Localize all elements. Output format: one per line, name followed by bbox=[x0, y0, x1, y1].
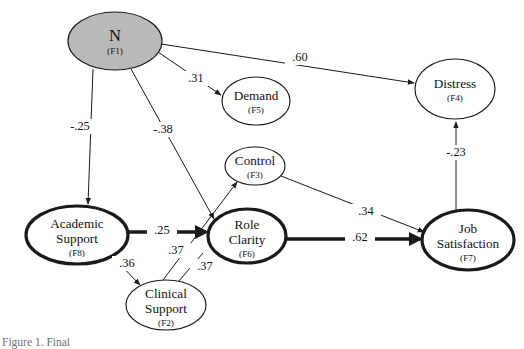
node-f1-n: N(F1) bbox=[68, 12, 162, 70]
node-factor-code: (F2) bbox=[158, 318, 174, 328]
node-label-line: Academic bbox=[50, 216, 104, 231]
coefficient-value: -.25 bbox=[70, 119, 90, 133]
path-coefficient-f2-f3: .37 bbox=[161, 243, 191, 258]
coefficient-value: .31 bbox=[188, 71, 204, 85]
path-diagram-canvas: N(F1)Demand(F5)Distress(F4)Control(F3)Ac… bbox=[0, 0, 524, 349]
node-label-line: Support bbox=[145, 301, 187, 316]
path-arrow-f1-to-f8 bbox=[88, 69, 93, 204]
coefficient-value: .34 bbox=[358, 204, 374, 218]
node-factor-code: (F8) bbox=[69, 248, 85, 258]
coefficient-value: .37 bbox=[168, 243, 184, 257]
node-label-line: Distress bbox=[434, 76, 477, 91]
node-label-line: N bbox=[109, 26, 121, 45]
path-coefficient-f8-f2: .36 bbox=[112, 256, 142, 271]
node-label-line: Role bbox=[235, 217, 260, 232]
node-f4-distress: Distress(F4) bbox=[415, 59, 495, 119]
node-f2-clinical-support: ClinicalSupport(F2) bbox=[126, 280, 206, 330]
node-factor-code: (F3) bbox=[247, 170, 263, 180]
path-coefficient-f3-f7: .34 bbox=[351, 204, 381, 219]
node-label-line: Satisfaction bbox=[437, 236, 500, 251]
path-coefficient-f1-f5: .31 bbox=[181, 71, 211, 86]
node-label-line: Job bbox=[459, 221, 478, 236]
path-arrow-f1-to-f6 bbox=[131, 69, 214, 219]
node-label-line: Support bbox=[56, 231, 98, 246]
node-label-line: Demand bbox=[234, 88, 279, 103]
path-coefficient-f2-f6: .37 bbox=[190, 259, 220, 274]
path-coefficient-f1-f4: .60 bbox=[285, 50, 315, 65]
node-factor-code: (F6) bbox=[239, 249, 255, 259]
node-factor-code: (F5) bbox=[248, 105, 264, 115]
figure-caption: Figure 1. Final bbox=[2, 338, 70, 348]
node-f7-job-satisfaction: JobSatisfaction(F7) bbox=[422, 210, 514, 270]
node-label-line: Control bbox=[235, 153, 276, 168]
coefficient-value: -.23 bbox=[446, 145, 466, 159]
node-f3-control: Control(F3) bbox=[225, 147, 285, 185]
latent-factor-nodes-layer: N(F1)Demand(F5)Distress(F4)Control(F3)Ac… bbox=[26, 12, 514, 330]
node-f8-academic-support: AcademicSupport(F8) bbox=[26, 206, 128, 264]
coefficient-value: .36 bbox=[119, 256, 135, 270]
coefficient-value: .62 bbox=[352, 230, 368, 244]
figure-caption-clip: Figure 1. Final bbox=[0, 338, 524, 349]
path-coefficient-f8-f6: .25 bbox=[147, 223, 177, 238]
path-coefficient-f1-f8: -.25 bbox=[65, 119, 95, 134]
coefficient-value: .25 bbox=[154, 223, 170, 237]
node-f5-demand: Demand(F5) bbox=[222, 77, 290, 125]
path-coefficient-f6-f7: .62 bbox=[345, 230, 375, 245]
sem-path-diagram: N(F1)Demand(F5)Distress(F4)Control(F3)Ac… bbox=[0, 0, 524, 349]
path-coefficient-f1-f6: -.38 bbox=[148, 122, 178, 137]
node-factor-code: (F7) bbox=[460, 253, 476, 263]
node-label-line: Clinical bbox=[145, 286, 187, 301]
node-f6-role-clarity: RoleClarity(F6) bbox=[208, 209, 286, 263]
path-coefficient-f7-f4: -.23 bbox=[441, 145, 471, 160]
coefficient-value: -.38 bbox=[153, 122, 173, 136]
node-factor-code: (F1) bbox=[107, 46, 123, 56]
node-label-line: Clarity bbox=[229, 232, 266, 247]
coefficient-value: .60 bbox=[292, 50, 308, 64]
node-factor-code: (F4) bbox=[447, 93, 463, 103]
coefficient-value: .37 bbox=[197, 259, 213, 273]
